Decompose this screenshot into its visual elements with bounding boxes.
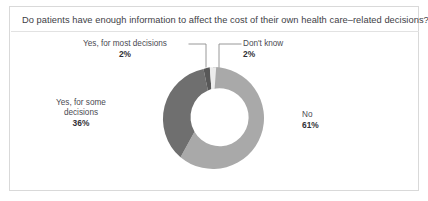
- label-percent: 36%: [73, 118, 90, 128]
- label-percent: 2%: [243, 49, 255, 59]
- label-text: No: [302, 110, 312, 119]
- label-yes-for-some-decisions: Yes, for some decisions 36%: [26, 98, 136, 130]
- label-dont-know: Don't know 2%: [243, 39, 339, 60]
- label-text: Don't know: [243, 39, 283, 48]
- label-yes-for-most-decisions: Yes, for most decisions 2%: [61, 39, 189, 60]
- label-text-line1: Yes, for some: [56, 98, 106, 107]
- label-percent: 61%: [302, 120, 319, 130]
- title-separator: [11, 31, 419, 32]
- label-percent: 2%: [119, 49, 131, 59]
- chart-title: Do patients have enough information to a…: [22, 14, 410, 26]
- label-text-line2: decisions: [64, 108, 98, 117]
- label-no: No 61%: [302, 110, 372, 131]
- label-text: Yes, for most decisions: [83, 39, 167, 48]
